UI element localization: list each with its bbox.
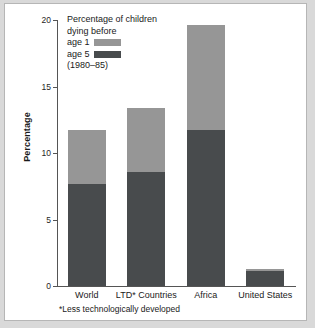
chart-figure: Percentage 05101520 WorldLTD* CountriesA… xyxy=(4,3,307,321)
legend-item-age-1: age 1 xyxy=(67,37,157,49)
chart-footnote: *Less technologically developed xyxy=(59,304,180,314)
legend-title-line-1: Percentage of children xyxy=(67,14,157,26)
bar-segment[interactable] xyxy=(68,130,106,183)
y-axis-tick-label: 0 xyxy=(46,281,51,291)
y-axis-tick-label: 10 xyxy=(42,148,51,158)
y-axis-tick-mark xyxy=(53,286,57,287)
bar-segment[interactable] xyxy=(246,269,284,272)
y-axis-tick-mark xyxy=(53,87,57,88)
y-axis-tick-label: 5 xyxy=(46,215,51,225)
chart-legend: Percentage of children dying before age … xyxy=(67,14,157,72)
legend-title-line-2: dying before xyxy=(67,26,157,38)
legend-item-age-1-label: age 1 xyxy=(67,37,90,49)
bar-segment[interactable] xyxy=(187,130,225,286)
legend-item-age-5-label: age 5 xyxy=(67,49,90,61)
bar-segment[interactable] xyxy=(187,25,225,130)
x-axis-category-label: Africa xyxy=(194,290,217,300)
x-axis-category-label: World xyxy=(75,290,98,300)
y-axis-tick-label: 15 xyxy=(42,82,51,92)
legend-swatch-age-1 xyxy=(94,39,121,46)
y-axis-tick-mark xyxy=(53,20,57,21)
x-axis-line xyxy=(57,286,296,287)
x-axis-category-label: LTD* Countries xyxy=(116,290,177,300)
legend-swatch-age-5 xyxy=(94,51,121,58)
legend-item-age-5: age 5 xyxy=(67,49,157,61)
y-axis-title: Percentage xyxy=(22,97,32,177)
bar-segment[interactable] xyxy=(127,172,165,286)
bar-segment[interactable] xyxy=(127,108,165,172)
y-axis-tick-mark xyxy=(53,220,57,221)
y-axis-tick-label: 20 xyxy=(42,15,51,25)
x-axis-category-label: United States xyxy=(238,290,292,300)
bar-segment[interactable] xyxy=(68,184,106,286)
y-axis-tick-mark xyxy=(53,153,57,154)
bar-segment[interactable] xyxy=(246,271,284,286)
legend-period-label: (1980–85) xyxy=(67,60,157,72)
